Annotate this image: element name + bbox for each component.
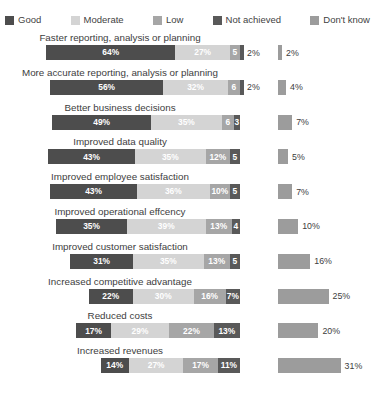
dont-know-value-label: 2% bbox=[282, 45, 299, 60]
legend-item-good[interactable]: Good bbox=[5, 15, 41, 25]
bar-segment-na[interactable]: 13% bbox=[214, 323, 240, 338]
stacked-bar[interactable]: 49%35%63 bbox=[52, 115, 240, 130]
bar-segment-dont-know[interactable] bbox=[278, 358, 341, 373]
bar-segment-low[interactable]: 22% bbox=[169, 323, 213, 338]
bar-segment-mod[interactable]: 35% bbox=[151, 115, 222, 130]
bar-segment-mod[interactable]: 29% bbox=[111, 323, 170, 338]
bar-segment-value-label: 27% bbox=[194, 48, 211, 56]
bar-segment-dont-know[interactable] bbox=[278, 254, 310, 269]
bar-segment-value-label: 32% bbox=[187, 83, 204, 91]
bar-segment-value-label: 64% bbox=[102, 48, 119, 56]
bar-segment-good[interactable]: 43% bbox=[48, 149, 135, 164]
legend-item-low[interactable]: Low bbox=[153, 15, 183, 25]
bar-segment-value-label: 35% bbox=[83, 222, 100, 230]
bar-segment-value-label: 17% bbox=[85, 327, 102, 335]
bar-segment-value-label: 30% bbox=[155, 292, 172, 300]
bar-segment-dont-know[interactable] bbox=[278, 149, 288, 164]
bar-segment-na[interactable]: 5 bbox=[230, 149, 240, 164]
legend-item-don-t-know[interactable]: Don't know bbox=[310, 15, 370, 25]
stacked-bar[interactable]: 14%27%17%11% bbox=[101, 358, 240, 373]
legend-item-moderate[interactable]: Moderate bbox=[71, 15, 124, 25]
bar-segment-value-label: 5 bbox=[233, 187, 238, 195]
bar-segment-good[interactable]: 35% bbox=[56, 219, 127, 234]
bar-segment-na[interactable]: 5 bbox=[230, 184, 240, 199]
dont-know-value-label: 7% bbox=[292, 184, 309, 199]
dont-know-value-label: 20% bbox=[318, 323, 340, 338]
bar-segment-na[interactable]: 4 bbox=[232, 219, 240, 234]
bar-segment-mod[interactable]: 27% bbox=[129, 358, 184, 373]
bar-segment-mod[interactable]: 30% bbox=[133, 289, 194, 304]
legend-item-label: Moderate bbox=[84, 15, 124, 25]
bar-segment-dont-know[interactable] bbox=[278, 323, 318, 338]
bar-segment-low[interactable]: 6 bbox=[228, 80, 240, 95]
bar-segment-mod[interactable]: 32% bbox=[163, 80, 228, 95]
legend-item-label: Not achieved bbox=[226, 15, 281, 25]
bar-segment-good[interactable]: 22% bbox=[89, 289, 133, 304]
legend-swatch-icon bbox=[310, 16, 319, 25]
stacked-bar[interactable]: 64%27%5 bbox=[46, 45, 240, 60]
bar-segment-good[interactable]: 56% bbox=[50, 80, 163, 95]
bar-segment-na[interactable]: 3 bbox=[234, 115, 240, 130]
chart-rows: Faster reporting, analysis or planning64… bbox=[0, 31, 373, 379]
bar-segment-dont-know[interactable] bbox=[278, 115, 292, 130]
bar-segment-good[interactable]: 64% bbox=[46, 45, 175, 60]
row-bar-area: 49%35%637% bbox=[0, 115, 373, 130]
bar-segment-good[interactable]: 43% bbox=[50, 184, 137, 199]
row-category-label: Reduced costs bbox=[0, 309, 373, 322]
chart-legend: GoodModerateLowNot achievedDon't know bbox=[5, 11, 370, 29]
bar-segment-mod[interactable]: 39% bbox=[127, 219, 206, 234]
bar-segment-low[interactable]: 16% bbox=[194, 289, 226, 304]
bar-segment-good[interactable]: 49% bbox=[52, 115, 151, 130]
stacked-bar[interactable]: 43%36%10%5 bbox=[50, 184, 240, 199]
bar-segment-mod[interactable]: 27% bbox=[175, 45, 230, 60]
bar-segment-na[interactable]: 7% bbox=[226, 289, 240, 304]
bar-segment-mod[interactable]: 35% bbox=[135, 149, 206, 164]
bar-segment-dont-know[interactable] bbox=[278, 80, 286, 95]
row-bar-area: 35%39%13%410% bbox=[0, 219, 373, 234]
dont-know-value-label: 31% bbox=[341, 358, 363, 373]
chart-row: Increased competitive advantage22%30%16%… bbox=[0, 275, 373, 310]
row-category-label: Improved data quality bbox=[0, 135, 373, 148]
row-category-label: Faster reporting, analysis or planning bbox=[0, 31, 373, 44]
bar-segment-good[interactable]: 31% bbox=[70, 254, 133, 269]
bar-segment-dont-know[interactable] bbox=[278, 184, 292, 199]
bar-segment-good[interactable]: 17% bbox=[76, 323, 110, 338]
bar-segment-low[interactable]: 13% bbox=[204, 254, 230, 269]
bar-segment-low[interactable]: 10% bbox=[210, 184, 230, 199]
stacked-bar[interactable]: 17%29%22%13% bbox=[76, 323, 240, 338]
bar-segment-mod[interactable]: 35% bbox=[133, 254, 204, 269]
dont-know-value-label: 25% bbox=[329, 289, 351, 304]
legend-item-label: Good bbox=[18, 15, 41, 25]
bar-segment-na[interactable]: 11% bbox=[218, 358, 240, 373]
row-bar-area: 31%35%13%516% bbox=[0, 254, 373, 269]
dont-know-value-label: 4% bbox=[286, 80, 303, 95]
stacked-bar[interactable]: 31%35%13%5 bbox=[70, 254, 240, 269]
stacked-bar[interactable]: 43%35%12%5 bbox=[48, 149, 240, 164]
bar-segment-dont-know[interactable] bbox=[278, 289, 329, 304]
bar-segment-low[interactable]: 17% bbox=[183, 358, 217, 373]
row-bar-area: 14%27%17%11%31% bbox=[0, 358, 373, 373]
legend-item-not-achieved[interactable]: Not achieved bbox=[213, 15, 281, 25]
bar-segment-dont-know[interactable] bbox=[278, 219, 298, 234]
row-bar-area: 64%27%52%2% bbox=[0, 45, 373, 60]
bar-segment-value-label: 49% bbox=[93, 118, 110, 126]
bar-segment-value-label: 31% bbox=[93, 257, 110, 265]
bar-segment-good[interactable]: 14% bbox=[101, 358, 129, 373]
row-category-label: Improved employee satisfaction bbox=[0, 170, 373, 183]
bar-segment-value-label: 27% bbox=[148, 361, 165, 369]
chart-row: Better business decisions49%35%637% bbox=[0, 101, 373, 136]
bar-segment-mod[interactable]: 36% bbox=[137, 184, 210, 199]
bar-segment-na[interactable]: 5 bbox=[230, 254, 240, 269]
stacked-bar[interactable]: 56%32%6 bbox=[50, 80, 240, 95]
bar-segment-value-label: 5 bbox=[233, 257, 238, 265]
bar-segment-low[interactable]: 5 bbox=[230, 45, 240, 60]
stacked-bar[interactable]: 35%39%13%4 bbox=[56, 219, 240, 234]
dont-know-value-label: 16% bbox=[310, 254, 332, 269]
bar-segment-low[interactable]: 12% bbox=[206, 149, 230, 164]
bar-segment-low[interactable]: 6 bbox=[222, 115, 234, 130]
legend-swatch-icon bbox=[213, 16, 222, 25]
stacked-bar[interactable]: 22%30%16%7% bbox=[89, 289, 241, 304]
bar-segment-value-label: 29% bbox=[132, 327, 149, 335]
bar-segment-value-label: 4 bbox=[234, 222, 239, 230]
bar-segment-low[interactable]: 13% bbox=[206, 219, 232, 234]
